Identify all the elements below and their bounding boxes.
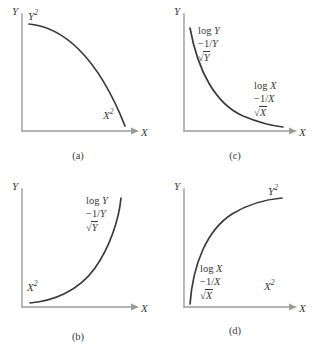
panel-b-plot	[0, 174, 159, 347]
panel-a: Y X Y2 X2 (a)	[0, 0, 159, 173]
sqrt-glyph: √Y	[198, 51, 210, 65]
ladder-row-log: log X	[254, 79, 276, 92]
ladder-row-sqrt: √Y	[198, 51, 220, 65]
y-ladder: log Y −1/Y √Y	[86, 194, 108, 235]
y-axis-label: Y	[174, 6, 180, 17]
sqrt-glyph: √X	[254, 106, 266, 120]
panel-caption-b: (b)	[58, 331, 98, 342]
ladder-row-log: log Y	[198, 24, 220, 37]
x-axis-arrowhead	[289, 304, 297, 311]
ladder-row-sqrt: √X	[200, 289, 222, 303]
panel-b: Y X log Y −1/Y √Y X2 (b)	[0, 174, 159, 347]
panel-caption-a: (a)	[58, 150, 98, 161]
panel-caption-c: (c)	[215, 150, 255, 161]
x-axis-arrowhead	[131, 304, 139, 311]
sqrt-overbar	[91, 221, 98, 222]
x-axis-label: X	[299, 127, 306, 138]
x-ladder: log X −1/X √X	[254, 79, 276, 120]
panel-caption-d: (d)	[215, 325, 255, 336]
y-power-label: Y2	[268, 186, 278, 197]
y-ladder: log Y −1/Y √Y	[198, 24, 220, 65]
y-axis-label: Y	[174, 181, 180, 192]
x-axis-label: X	[141, 127, 148, 138]
panel-c: Y X log Y −1/Y √Y log X −1/X √X (c)	[160, 0, 319, 173]
x-axis-arrowhead	[131, 128, 139, 135]
sqrt-overbar	[205, 289, 212, 290]
panel-a-plot	[0, 0, 159, 173]
sqrt-overbar	[259, 106, 266, 107]
sqrt-glyph: √Y	[86, 221, 98, 235]
ladder-row-negrecip: −1/Y	[86, 207, 108, 220]
ladder-row-log: log Y	[86, 194, 108, 207]
panel-c-plot	[160, 0, 319, 173]
y-axis-label: Y	[12, 6, 18, 17]
y-axis-label: Y	[12, 181, 18, 192]
tukey-bulging-rule-figure: Y X Y2 X2 (a) Y X log Y −1/Y √Y log X −1…	[0, 0, 319, 347]
x-power-label: X2	[103, 110, 113, 121]
panel-d-plot	[160, 174, 319, 347]
x-power-label: X2	[264, 281, 274, 292]
x-axis-label: X	[299, 303, 306, 314]
panel-d: Y X Y2 log X −1/X √X X2 (d)	[160, 174, 319, 347]
x-ladder: log X −1/X √X	[200, 262, 222, 303]
sqrt-glyph: √X	[200, 289, 212, 303]
ladder-row-log: log X	[200, 262, 222, 275]
ladder-row-sqrt: √X	[254, 106, 276, 120]
ladder-row-negrecip: −1/Y	[198, 37, 220, 50]
ladder-row-negrecip: −1/X	[200, 275, 222, 288]
x-power-label: X2	[27, 282, 37, 293]
sqrt-overbar	[203, 51, 210, 52]
x-axis-arrowhead	[289, 128, 297, 135]
ladder-row-negrecip: −1/X	[254, 92, 276, 105]
x-axis-label: X	[141, 303, 148, 314]
y-power-label: Y2	[28, 11, 38, 22]
ladder-row-sqrt: √Y	[86, 221, 108, 235]
